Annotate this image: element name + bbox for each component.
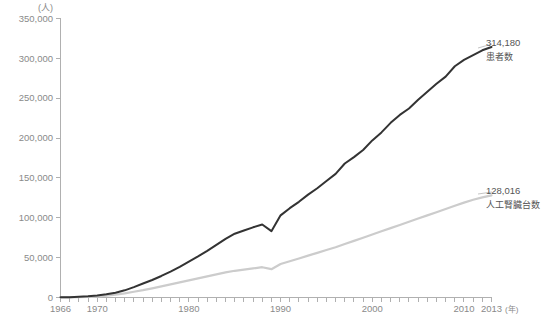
y-tick-label: 200,000 <box>19 132 53 143</box>
chart-container: (人) 0 50,000 100,000 150,000 200,000 250… <box>0 0 542 323</box>
annotation-machines: 128,016 人工腎臓台数 <box>486 185 540 210</box>
x-tick-label: 2013 <box>481 303 502 314</box>
x-minor-tick-marks <box>61 298 492 302</box>
annotation-patients-label: 患者数 <box>486 51 513 62</box>
x-tick-labels: 1966 1970 1980 1990 2000 2010 2013 (年) <box>50 303 519 314</box>
x-axis-unit-label: (年) <box>505 304 519 314</box>
y-tick-label: 300,000 <box>19 53 53 64</box>
y-tick-label: 350,000 <box>19 13 53 24</box>
y-tick-labels: 0 50,000 100,000 150,000 200,000 250,000… <box>19 13 53 303</box>
x-tick-label: 1966 <box>50 303 71 314</box>
annotation-machines-label: 人工腎臓台数 <box>486 199 540 210</box>
y-tick-label: 150,000 <box>19 172 53 183</box>
line-chart: (人) 0 50,000 100,000 150,000 200,000 250… <box>0 0 542 323</box>
x-tick-label: 2000 <box>362 303 383 314</box>
y-tick-label: 250,000 <box>19 92 53 103</box>
x-tick-label: 1970 <box>87 303 108 314</box>
x-tick-label: 2010 <box>453 303 474 314</box>
series-line-patients <box>61 47 492 297</box>
x-tick-label: 1980 <box>178 303 199 314</box>
y-tick-label: 0 <box>48 292 53 303</box>
x-tick-label: 1990 <box>270 303 291 314</box>
annotation-patients: 314,180 患者数 <box>486 37 520 62</box>
y-tick-marks <box>56 18 61 297</box>
series-line-machines <box>61 195 492 297</box>
y-tick-label: 50,000 <box>24 252 53 263</box>
y-axis-unit-label: (人) <box>38 3 53 13</box>
annotation-machines-value: 128,016 <box>486 185 520 196</box>
annotation-patients-value: 314,180 <box>486 37 520 48</box>
y-tick-label: 100,000 <box>19 212 53 223</box>
